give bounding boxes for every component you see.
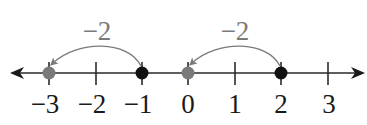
jump-arc-1 <box>53 46 141 66</box>
point-2 <box>275 67 288 80</box>
tick-label-1: 1 <box>228 89 242 119</box>
jump-arc-2 <box>192 46 280 66</box>
tick-label-2: 2 <box>274 89 288 119</box>
tick-label-3: 3 <box>322 89 336 119</box>
tick-label-0: 0 <box>181 89 195 119</box>
point-neg1 <box>136 67 149 80</box>
jump-label-1: −2 <box>83 16 112 46</box>
point-0 <box>182 67 195 80</box>
number-line-diagram: −2 −2 −3 −2 −1 0 1 2 3 <box>0 0 367 125</box>
tick-label-neg1: −1 <box>124 89 153 119</box>
tick-label-neg2: −2 <box>78 89 107 119</box>
point-neg3 <box>43 67 56 80</box>
tick-label-neg3: −3 <box>31 89 60 119</box>
jump-label-2: −2 <box>221 16 250 46</box>
